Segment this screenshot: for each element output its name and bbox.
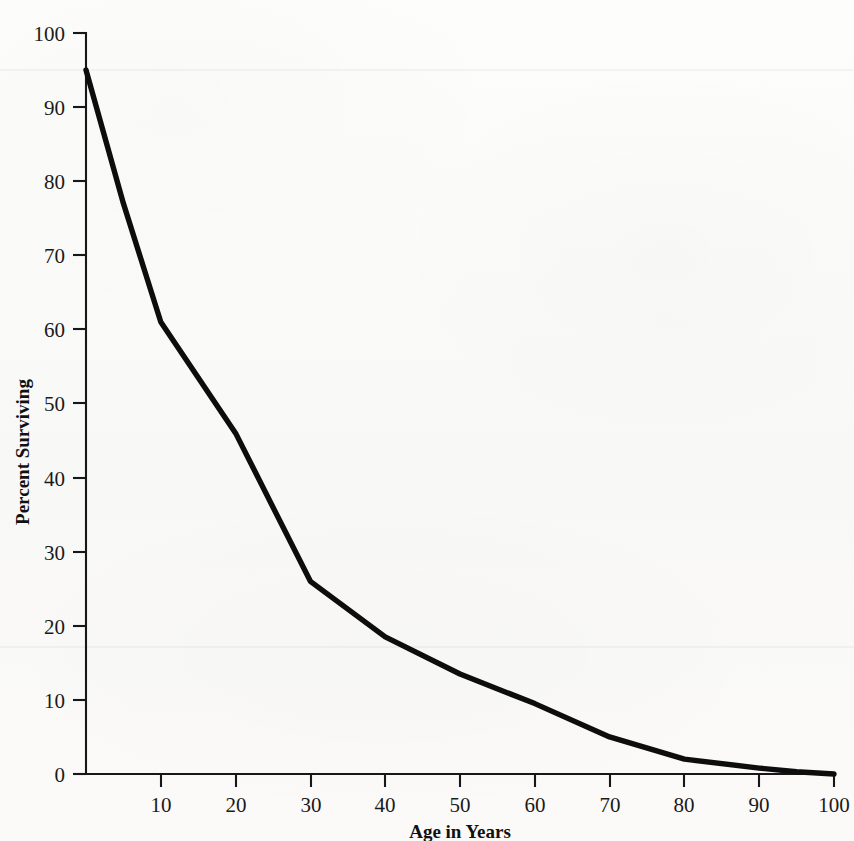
x-axis-ticks bbox=[161, 774, 834, 787]
y-tick-label: 90 bbox=[44, 96, 65, 120]
x-tick-label: 20 bbox=[226, 793, 247, 817]
survivorship-curve bbox=[86, 70, 834, 774]
x-tick-label: 90 bbox=[749, 793, 770, 817]
x-axis: 10 20 30 40 50 60 70 80 90 100 Age in Ye… bbox=[86, 774, 850, 841]
x-tick-label: 50 bbox=[450, 793, 471, 817]
x-tick-label: 80 bbox=[674, 793, 695, 817]
x-axis-tick-labels: 10 20 30 40 50 60 70 80 90 100 bbox=[151, 793, 850, 817]
y-tick-label: 70 bbox=[44, 244, 65, 268]
x-tick-label: 70 bbox=[600, 793, 621, 817]
y-tick-label: 50 bbox=[44, 392, 65, 416]
x-tick-label: 40 bbox=[375, 793, 396, 817]
y-tick-label: 0 bbox=[55, 763, 66, 787]
x-tick-label: 100 bbox=[818, 793, 850, 817]
y-axis: 100 90 80 70 60 50 40 30 20 10 0 Percent… bbox=[12, 22, 86, 787]
x-axis-title: Age in Years bbox=[409, 821, 511, 841]
x-tick-label: 10 bbox=[151, 793, 172, 817]
y-tick-label: 100 bbox=[34, 22, 66, 46]
y-tick-label: 40 bbox=[44, 467, 65, 491]
x-tick-label: 60 bbox=[525, 793, 546, 817]
y-axis-ticks bbox=[73, 33, 86, 774]
x-tick-label: 30 bbox=[301, 793, 322, 817]
y-tick-label: 80 bbox=[44, 170, 65, 194]
y-axis-tick-labels: 100 90 80 70 60 50 40 30 20 10 0 bbox=[34, 22, 66, 787]
survivorship-line-chart: 100 90 80 70 60 50 40 30 20 10 0 Percent… bbox=[0, 0, 854, 841]
y-tick-label: 60 bbox=[44, 318, 65, 342]
y-tick-label: 30 bbox=[44, 541, 65, 565]
y-tick-label: 20 bbox=[44, 615, 65, 639]
y-tick-label: 10 bbox=[44, 689, 65, 713]
y-axis-title: Percent Surviving bbox=[12, 379, 33, 525]
